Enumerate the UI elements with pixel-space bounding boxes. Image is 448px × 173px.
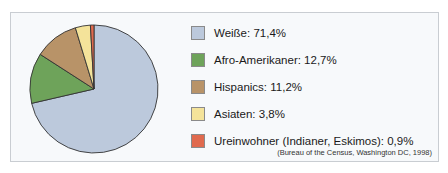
legend-item-afro-amerikaner: Afro-Amerikaner: 12,7% [191, 50, 337, 70]
pie-chart [11, 13, 191, 163]
legend-label: Asiaten: 3,8% [214, 108, 285, 120]
legend-label: Weiße: 71,4% [214, 27, 286, 39]
legend-swatch [191, 107, 205, 121]
legend-swatch [191, 26, 205, 40]
legend-label: Hispanics: 11,2% [214, 81, 302, 93]
legend-item-hispanics: Hispanics: 11,2% [191, 77, 302, 97]
legend-swatch [191, 134, 205, 148]
legend-item-asiaten: Asiaten: 3,8% [191, 104, 285, 124]
legend-label: Ureinwohner (Indianer, Eskimos): 0,9% [214, 135, 413, 147]
legend-swatch [191, 80, 205, 94]
legend-label: Afro-Amerikaner: 12,7% [214, 54, 337, 66]
chart-frame: Weiße: 71,4% Afro-Amerikaner: 12,7% Hisp… [10, 12, 439, 162]
legend-item-weisse: Weiße: 71,4% [191, 23, 286, 43]
source-note: (Bureau of the Census, Washington DC, 19… [277, 148, 432, 157]
legend-swatch [191, 53, 205, 67]
